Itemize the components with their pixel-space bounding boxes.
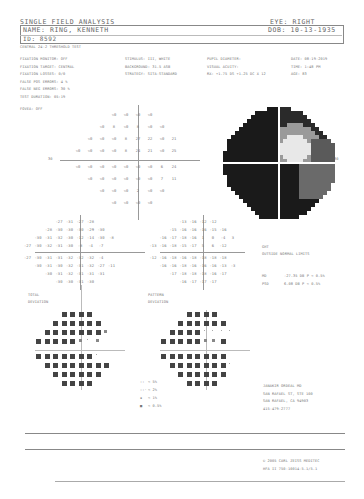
ght-value: OUTSIDE NORMAL LIMITS [262,252,310,256]
td-probability-symbol [96,363,101,368]
td-probability-symbol [53,372,58,377]
td-probability-symbol [79,372,84,377]
pd-value: -12 [207,219,219,224]
pd-probability-symbol [195,330,200,335]
grayscale-cell [307,207,311,211]
pd-probability-symbol [204,363,209,368]
thr-value: <0 [72,148,84,153]
thr-value: <0 [84,136,96,141]
pd-probability-symbol [195,312,200,317]
thr-value: 8 [108,124,120,129]
thr-value: 24 [132,148,144,153]
thr-value: 11 [168,176,180,181]
td-probability-symbol [70,363,75,368]
td-probability-symbol [36,339,41,344]
pd-probability-symbol [221,363,226,368]
td-probability-symbol [62,312,67,317]
pd-probability-symbol [212,372,217,377]
grayscale-cell [315,199,319,203]
pd-probability-symbol [221,330,222,331]
pd-probability-symbol [229,330,230,331]
thr-value: 21 [168,136,180,141]
td-probability-symbol [104,363,109,368]
thr-value: <0 [96,176,108,181]
legend-label: < 5% [148,380,157,384]
grayscale-horizontal-axis [215,162,335,164]
td-probability-symbol [62,339,67,344]
pd-probability-symbol [170,330,175,335]
legend-label: < 1% [148,396,157,400]
pd-probability-symbol [229,363,230,364]
pd-probability-symbol [221,372,226,377]
thr-value: <0 [132,176,144,181]
patient-dob: DOB: 10-13-1935 [268,26,336,34]
thr-value: <0 [96,164,108,169]
td-value: -28 [85,219,97,224]
params-right: PUPIL DIAMETER: VISUAL ACUITY: RX: +1.75… [207,57,266,80]
pd-probability-symbol [221,339,226,344]
thr-value: <0 [156,136,168,141]
thr-value: <0 [120,176,132,181]
footer-copyright: © 2005 CARL ZEISS MEDITEC [263,459,320,463]
td-probability-symbol [87,339,88,340]
pd-probability-symbol [187,330,192,335]
thr-value: <0 [144,112,156,117]
thr-value: <0 [84,148,96,153]
pd-probability-symbol [204,339,207,342]
td-probability-symbol [96,330,101,335]
pd-value: -12 [217,243,229,248]
pd-probability-symbol [187,321,192,326]
td-probability-symbol [45,330,50,335]
thr-value: 22 [144,136,156,141]
td-probability-symbol [87,354,92,359]
param-fixation-losses: FIXATION LOSSES: 0/0 [20,72,74,80]
thr-value: <0 [96,136,108,141]
threshold-map: 30 <0<0<0<0<08<08<0<0<0<0<082722<021<0<0… [60,105,200,220]
thr-value: <0 [72,164,84,169]
md-value: -27.35 DB P < 0.5% [284,274,325,278]
patient-name: NAME: RING, KENNETH [23,26,109,34]
pd-probability-symbol [212,312,217,317]
td-probability-symbol [79,354,84,359]
pd-probability-symbol [212,381,217,386]
thr-value: 8 [132,124,144,129]
thr-value: <0 [108,136,120,141]
td-probability-symbol [62,372,67,377]
param-rx: RX: +1.75 DS +1.25 DC X 12 [207,72,266,80]
pd-probability-symbol [204,354,209,359]
thr-value: 7 [156,176,168,181]
td-probability-symbol [87,372,92,377]
td-probability-symbol [70,330,75,335]
thr-value: <0 [132,200,144,205]
thr-value: <0 [84,164,96,169]
pd-value: -3 [227,263,239,268]
thr-value: 27 [132,136,144,141]
thr-value: <0 [132,164,144,169]
td-probability-symbol [87,321,92,326]
pd-probability-symbol [187,372,192,377]
grayscale-cell [295,215,299,219]
legend-item: ■< 0.5% [140,404,162,412]
td-probability-symbol [104,330,107,333]
grayscale-cell [327,187,331,191]
pd-probability-symbol [195,372,200,377]
pattern-deviation-probability-plot [160,310,250,390]
md-label: MD [262,274,267,278]
pd-probability-symbol [195,321,200,326]
footer-rule-3 [55,481,345,482]
thr-value: <0 [156,124,168,129]
pd-probability-symbol [212,321,217,326]
thr-value: <0 [108,148,120,153]
params-far: DATE: 08-19-2019 TIME: 1:48 PM AGE: 83 [291,57,327,80]
td-value: -30 [95,227,107,232]
td-probability-symbol [70,354,75,359]
td-probability-symbol [96,339,99,342]
clinic-line-4: 415-479-2777 [263,407,313,415]
thr-value: <0 [108,200,120,205]
thr-value: <0 [120,112,132,117]
probability-legend: ::< 5%::·< 2%▪< 1%■< 0.5% [140,380,162,412]
pd-probability-symbol [178,363,183,368]
thr-value: <0 [120,164,132,169]
td-probability-symbol [79,321,84,326]
clinic-line-3: SAN RAFAEL, CA 94903 [263,399,313,407]
